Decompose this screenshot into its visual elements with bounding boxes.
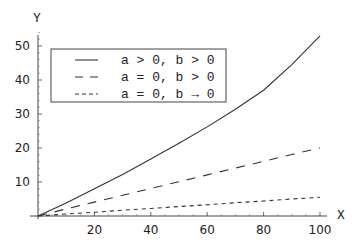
- legend: a > 0, b > 0 a = 0, b > 0 a = 0, b → 0: [51, 49, 226, 102]
- line-chart: 204060801001020304050 a > 0, b > 0 a = 0…: [0, 0, 361, 245]
- legend-label: a > 0, b > 0: [121, 53, 215, 68]
- x-tick-label: 80: [256, 223, 271, 237]
- y-tick-label: 40: [15, 73, 30, 87]
- legend-label: a = 0, b → 0: [121, 87, 215, 102]
- x-tick-label: 40: [143, 223, 158, 237]
- y-tick-label: 30: [15, 107, 30, 121]
- x-axis-title: X: [337, 208, 345, 223]
- series-short-dash: [38, 197, 320, 216]
- y-axis-title: Y: [33, 11, 41, 26]
- series-long-dash: [38, 148, 320, 216]
- y-tick-label: 20: [15, 141, 30, 155]
- x-tick-label: 20: [87, 223, 102, 237]
- x-tick-label: 100: [309, 223, 332, 237]
- legend-label: a = 0, b > 0: [121, 70, 215, 85]
- y-tick-label: 10: [15, 175, 30, 189]
- y-tick-label: 50: [15, 39, 30, 53]
- x-tick-label: 60: [200, 223, 215, 237]
